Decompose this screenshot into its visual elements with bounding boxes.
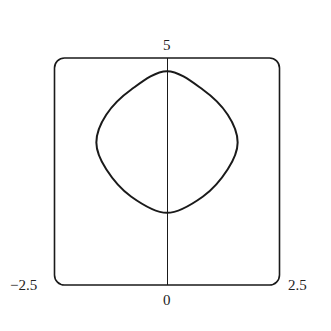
y-max-label: 5 xyxy=(163,38,171,53)
x-origin-label: 0 xyxy=(163,293,171,308)
x-max-label: 2.5 xyxy=(288,278,307,293)
x-min-label: −2.5 xyxy=(10,278,37,293)
